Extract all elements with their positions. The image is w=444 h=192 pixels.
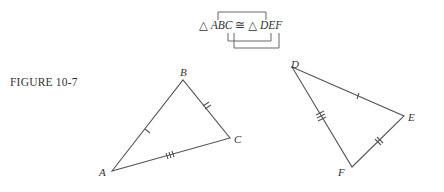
vertex-label-c: C: [234, 133, 241, 145]
figure-drawing: [0, 0, 444, 192]
triangle-def: [292, 67, 404, 167]
bracket-a-d: [218, 12, 266, 20]
vertex-label-f: F: [338, 166, 345, 178]
vertex-label-d: D: [291, 58, 299, 70]
vertex-label-a: A: [99, 166, 106, 178]
vertex-label-b: B: [180, 66, 187, 78]
vertex-label-e: E: [408, 111, 415, 123]
